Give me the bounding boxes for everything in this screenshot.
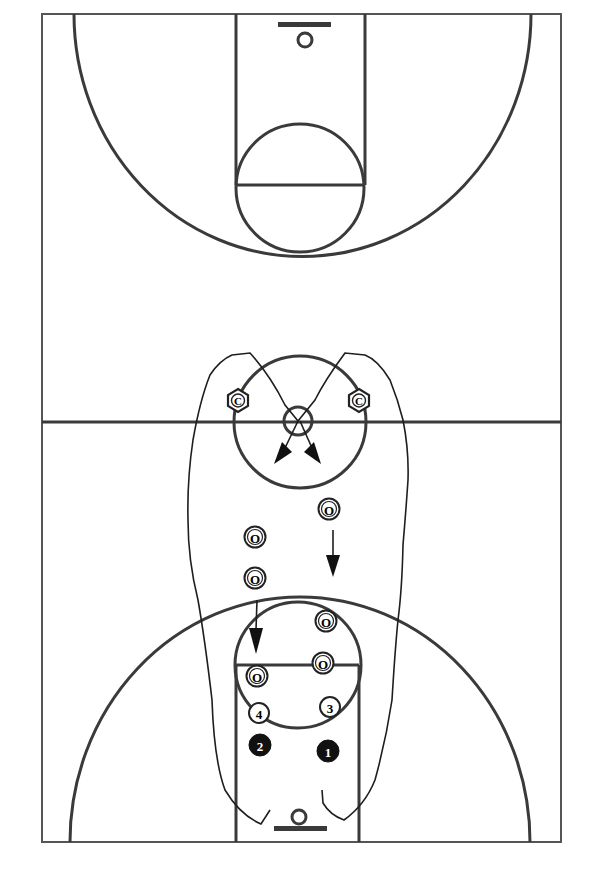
defender-o-3-label: O xyxy=(250,572,260,587)
arrow-left-head-icon xyxy=(274,442,292,464)
arrow-right-head-icon xyxy=(304,442,321,464)
offense-player-2-label: 2 xyxy=(257,739,264,754)
defender-o-3: O xyxy=(245,568,266,589)
zone-outline-left xyxy=(188,353,298,824)
basketball-court-diagram: C C O O O O O O 4 3 xyxy=(0,0,595,893)
bottom-backboard xyxy=(274,826,327,831)
defender-c-right-label: C xyxy=(355,395,363,407)
offense-player-4: 4 xyxy=(249,703,269,723)
defender-c-left-label: C xyxy=(234,395,242,407)
defender-o-4: O xyxy=(316,611,337,632)
top-backboard xyxy=(278,22,331,27)
offense-player-2: 2 xyxy=(249,734,271,756)
defender-o-5-label: O xyxy=(318,657,328,672)
offense-player-1: 1 xyxy=(317,740,339,762)
defender-o-4-label: O xyxy=(321,615,331,630)
arrow-lane-shaft xyxy=(256,600,257,630)
defender-o-1-label: O xyxy=(324,503,334,518)
offense-player-3: 3 xyxy=(320,697,340,717)
defender-o-2-label: O xyxy=(250,531,260,546)
top-three-point-arc xyxy=(74,14,531,257)
offense-player-4-label: 4 xyxy=(256,707,263,722)
court-boundary xyxy=(42,14,561,842)
offense-player-1-label: 1 xyxy=(325,745,332,760)
defender-o-6-label: O xyxy=(252,670,262,685)
top-hoop-icon xyxy=(298,33,312,47)
defender-o-5: O xyxy=(313,653,334,674)
bottom-hoop-icon xyxy=(292,810,306,824)
defender-c-left: C xyxy=(228,389,248,412)
arrow-drop-head-icon xyxy=(326,555,340,577)
defender-o-1: O xyxy=(319,499,340,520)
offense-player-3-label: 3 xyxy=(327,701,334,716)
defender-o-2: O xyxy=(245,527,266,548)
top-free-throw-circle xyxy=(236,124,364,252)
arrow-lane-head-icon xyxy=(249,628,263,654)
defender-o-6: O xyxy=(247,666,268,687)
bottom-three-point-arc xyxy=(70,597,530,842)
defender-c-right: C xyxy=(349,389,369,412)
